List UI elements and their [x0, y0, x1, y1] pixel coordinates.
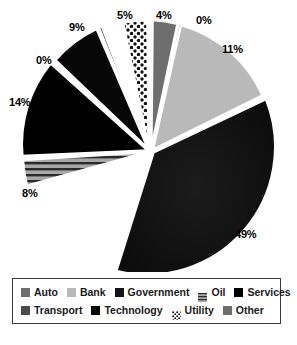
legend-item-services[interactable]: Services	[234, 287, 290, 297]
pie-chart-area: 5% 4% 0% 11% 49% 8% 14% 0% 9%	[0, 0, 297, 272]
slice-label-services: 14%	[9, 96, 30, 108]
services-swatch-icon	[234, 288, 243, 297]
other-swatch-icon	[223, 306, 232, 315]
slice-label-other: 0%	[196, 14, 212, 26]
legend-item-technology[interactable]: Technology	[91, 305, 162, 315]
legend-item-other[interactable]: Other	[223, 305, 264, 315]
legend-item-bank[interactable]: Bank	[67, 287, 106, 297]
legend-label-government: Government	[128, 287, 190, 297]
slice-label-auto: 4%	[156, 9, 172, 21]
legend-item-government[interactable]: Government	[115, 287, 190, 297]
legend-item-auto[interactable]: Auto	[21, 287, 58, 297]
oil-swatch-icon	[198, 288, 207, 297]
legend-item-oil[interactable]: Oil	[198, 287, 225, 297]
legend-label-transport: Transport	[34, 305, 82, 315]
legend-label-technology: Technology	[104, 305, 162, 315]
legend-label-bank: Bank	[80, 287, 106, 297]
legend-row-1: Auto Bank Government Oil Services	[21, 283, 274, 301]
legend-label-oil: Oil	[211, 287, 225, 297]
slice-label-government: 49%	[235, 228, 256, 240]
legend-item-transport[interactable]: Transport	[21, 305, 82, 315]
auto-swatch-icon	[21, 288, 30, 297]
chart-legend: Auto Bank Government Oil Services Transp…	[12, 278, 281, 324]
bank-swatch-icon	[67, 288, 76, 297]
utility-swatch-icon	[172, 306, 181, 315]
government-swatch-icon	[115, 288, 124, 297]
slice-oil	[23, 152, 148, 186]
technology-swatch-icon	[91, 306, 100, 315]
legend-item-utility[interactable]: Utility	[172, 305, 214, 315]
transport-swatch-icon	[21, 306, 30, 315]
legend-row-2: Transport Technology Utility Other	[21, 301, 274, 319]
legend-label-other: Other	[236, 305, 264, 315]
slice-label-oil: 8%	[22, 187, 38, 199]
slice-label-bank: 11%	[222, 43, 243, 55]
legend-label-auto: Auto	[34, 287, 58, 297]
slice-label-transport: 0%	[36, 54, 52, 66]
legend-label-services: Services	[247, 287, 290, 297]
slice-label-technology: 9%	[69, 21, 85, 33]
slice-label-utility: 5%	[117, 9, 133, 21]
legend-label-utility: Utility	[185, 305, 214, 315]
